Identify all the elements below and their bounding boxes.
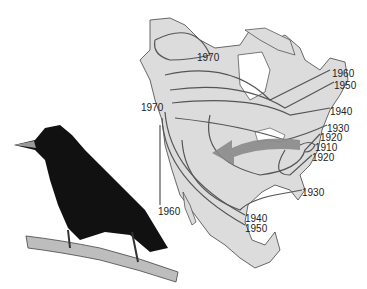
starling-spread-figure: 1970 1960 1950 1970 1940 1930 1920 1910 … xyxy=(0,0,367,289)
isochrone-label-1950-east: 1950 xyxy=(334,81,356,91)
isochrone-label-1970-north: 1970 xyxy=(197,53,219,63)
isochrone-label-1970-west: 1970 xyxy=(141,103,163,113)
isochrone-label-1940-east: 1940 xyxy=(330,107,352,117)
isochrone-label-1930-south: 1930 xyxy=(302,188,324,198)
isochrone-label-1960-west: 1960 xyxy=(158,207,180,217)
north-america-map xyxy=(0,0,367,289)
isochrone-label-1950-south: 1950 xyxy=(245,224,267,234)
isochrone-label-1960-east: 1960 xyxy=(332,69,354,79)
isochrone-label-1920-south: 1920 xyxy=(312,153,334,163)
